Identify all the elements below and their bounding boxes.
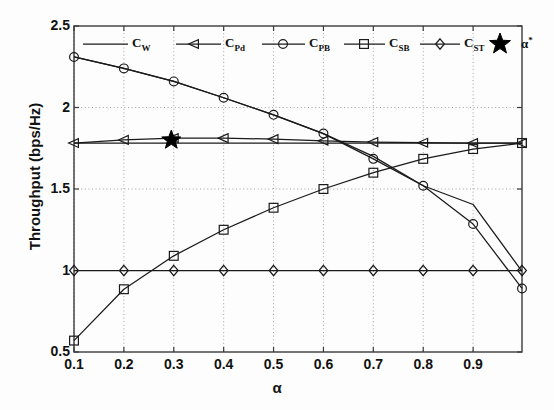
series-c-sb bbox=[70, 139, 527, 345]
series-c-st bbox=[70, 265, 527, 275]
legend-label-c-pb: CPB bbox=[309, 35, 330, 53]
legend-label-c-w: CW bbox=[132, 35, 150, 53]
plot-area bbox=[0, 0, 554, 410]
series-c-extra bbox=[74, 57, 522, 271]
annotations bbox=[162, 130, 181, 148]
series-c-pb bbox=[70, 53, 527, 293]
legend-label-c-pd: CPd bbox=[225, 35, 245, 53]
legend-label-c-st: CST bbox=[464, 35, 484, 53]
data-series bbox=[69, 53, 527, 345]
legend-marker-star bbox=[490, 33, 511, 53]
legend-label-c-sb: CSB bbox=[389, 35, 409, 53]
gridlines bbox=[74, 26, 522, 352]
alpha-star-marker bbox=[162, 130, 181, 148]
series-c-pd bbox=[69, 134, 527, 148]
legend-label-alpha-star: α* bbox=[521, 35, 533, 52]
throughput-vs-alpha-chart: Throughput (bps/Hz) α 0.511.522.5 0.10.2… bbox=[0, 0, 554, 410]
